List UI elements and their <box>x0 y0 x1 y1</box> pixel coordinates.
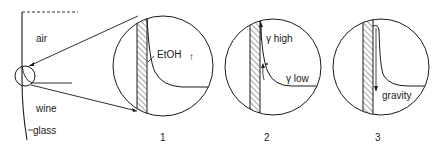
tears-of-wine-diagram: air wine glass EtOH ↑ 1 γ high γ low 2 <box>0 0 442 151</box>
panel-3-number: 3 <box>375 132 381 143</box>
panel-3-gravity-label: gravity <box>382 90 411 101</box>
panel-3-glass-hatch <box>363 12 373 124</box>
panel-2-gamma-high-label: γ high <box>266 33 293 44</box>
panel-3-liquid-surface <box>373 26 430 87</box>
panel-2-lower-arrowhead <box>261 63 265 68</box>
panel-1-circle <box>113 16 213 116</box>
panel-1-up-arrow-icon: ↑ <box>189 51 194 62</box>
panel-2: γ high γ low 2 <box>225 12 322 143</box>
meniscus-small <box>22 66 72 83</box>
wine-label: wine <box>35 103 57 114</box>
overview: air wine glass <box>15 12 138 140</box>
panel-1-glass-hatch <box>137 10 147 122</box>
panel-3-gravity-arrowhead-icon <box>374 86 378 92</box>
panel-2-gamma-low-label: γ low <box>286 73 310 84</box>
panel-3: gravity 3 <box>333 12 430 143</box>
panel-1: EtOH ↑ 1 <box>113 10 214 143</box>
panel-1-etoh-label: EtOH <box>157 49 181 60</box>
glass-label: glass <box>33 125 56 136</box>
panel-2-flow-arrow-lower <box>263 66 264 80</box>
panel-2-glass-hatch <box>250 12 260 124</box>
air-label: air <box>36 33 48 44</box>
arrowhead-top <box>29 62 34 66</box>
panel-1-number: 1 <box>160 132 166 143</box>
panel-2-number: 2 <box>264 132 270 143</box>
panel-2-flow-dot <box>266 63 268 65</box>
